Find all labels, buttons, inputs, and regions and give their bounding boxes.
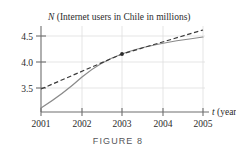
y-tick-label-3.5: 3.5 (21, 84, 33, 94)
x-tick-label-2005: 2005 (194, 119, 213, 129)
internet-users-chart: 4.5 4.0 3.5 2001 2002 2003 2004 2005 N (… (0, 0, 236, 155)
gridlines (41, 26, 205, 112)
x-tick-label-2002: 2002 (73, 119, 92, 129)
x-axis-title: t (years) (212, 107, 236, 118)
figure-caption: FIGURE 8 (0, 136, 236, 146)
x-tick-label-2001: 2001 (32, 119, 51, 129)
x-tick-label-2003: 2003 (113, 119, 132, 129)
x-axis-title-rest: (years) (215, 107, 236, 118)
figure-container: 4.5 4.0 3.5 2001 2002 2003 2004 2005 N (… (0, 0, 236, 155)
chart-title: N (Internet users in Chile in millions) (47, 12, 191, 23)
tangent-point-marker (120, 52, 124, 56)
x-tick-label-2004: 2004 (154, 119, 173, 129)
y-tick-label-4.0: 4.0 (21, 58, 33, 68)
y-tick-label-4.5: 4.5 (21, 32, 33, 42)
chart-title-rest: (Internet users in Chile in millions) (54, 12, 190, 23)
